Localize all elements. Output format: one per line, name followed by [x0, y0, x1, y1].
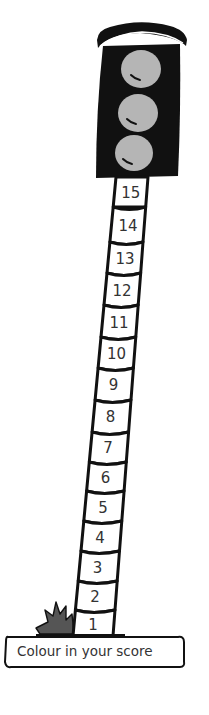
score-segment-15[interactable]: 15	[113, 177, 148, 207]
segment-number: 7	[103, 439, 113, 457]
segment-number: 9	[109, 376, 119, 394]
segment-number: 4	[95, 529, 105, 547]
segment-number: 12	[112, 282, 131, 300]
score-segment-13[interactable]: 13	[107, 242, 143, 276]
segment-number: 11	[109, 314, 128, 332]
score-segment-8[interactable]: 8	[92, 400, 131, 435]
score-pole: 15 14 13 12 11 10 9 8	[73, 177, 148, 636]
segment-number: 1	[88, 616, 98, 634]
score-segment-4[interactable]: 4	[81, 521, 122, 554]
score-segment-5[interactable]: 5	[84, 491, 124, 524]
score-segment-1[interactable]: 1	[73, 610, 115, 636]
light-top[interactable]	[121, 50, 161, 88]
instruction-label: Colour in your score	[5, 637, 184, 667]
segment-number: 15	[121, 184, 140, 202]
grass-tuft-icon	[36, 602, 74, 634]
traffic-light	[96, 22, 187, 178]
score-segment-11[interactable]: 11	[101, 305, 138, 340]
light-bottom[interactable]	[115, 135, 153, 171]
score-segment-9[interactable]: 9	[95, 368, 133, 403]
traffic-light-hood	[97, 22, 187, 48]
score-segment-3[interactable]: 3	[78, 551, 119, 584]
score-segment-7[interactable]: 7	[89, 432, 128, 465]
segment-number: 5	[98, 499, 108, 517]
score-segment-14[interactable]: 14	[110, 207, 146, 245]
score-traffic-light-worksheet: 15 14 13 12 11 10 9 8	[0, 0, 209, 715]
segment-number: 8	[106, 408, 116, 426]
segment-number: 14	[118, 217, 137, 235]
segment-number: 6	[101, 469, 111, 487]
score-segment-10[interactable]: 10	[98, 337, 136, 371]
segment-number: 3	[93, 559, 103, 577]
instruction-text: Colour in your score	[17, 643, 153, 659]
score-segment-2[interactable]: 2	[75, 581, 117, 613]
segment-number: 10	[107, 345, 126, 363]
score-segment-12[interactable]: 12	[104, 273, 141, 308]
segment-number: 2	[90, 588, 100, 606]
segment-number: 13	[115, 250, 134, 268]
score-segment-6[interactable]: 6	[87, 462, 127, 494]
light-middle[interactable]	[118, 94, 158, 132]
